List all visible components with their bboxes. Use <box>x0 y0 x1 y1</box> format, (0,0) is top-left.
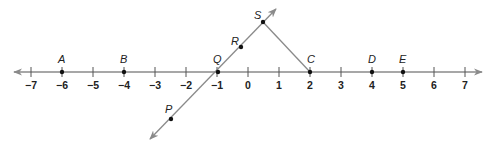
point-b: B <box>120 53 127 74</box>
point-c: C <box>307 53 315 74</box>
point-a: A <box>57 53 65 74</box>
tick-label: −7 <box>25 79 37 91</box>
tick-label: −1 <box>211 79 223 91</box>
tick-label: 3 <box>338 79 344 91</box>
diagram-canvas: −7−6−5−4−3−2−101234567 A B Q C D E P R S <box>0 0 493 151</box>
point-d: D <box>368 53 376 74</box>
geometry-diagram: −7−6−5−4−3−2−101234567 A B Q C D E P R S <box>0 0 493 151</box>
tick-label: −6 <box>56 79 68 91</box>
tick-label: 1 <box>276 79 282 91</box>
tick-label: 6 <box>431 79 437 91</box>
svg-text:B: B <box>120 53 127 65</box>
point-p: P <box>165 103 173 121</box>
segment-sc <box>263 22 310 72</box>
point-r: R <box>231 35 243 49</box>
svg-text:Q: Q <box>213 53 222 65</box>
svg-text:R: R <box>231 35 239 47</box>
tick-label: −4 <box>118 79 130 91</box>
point-s: S <box>254 9 265 24</box>
tick-label: 2 <box>307 79 313 91</box>
svg-text:S: S <box>254 9 262 21</box>
svg-text:D: D <box>368 53 376 65</box>
svg-text:C: C <box>307 53 315 65</box>
point-q: Q <box>213 53 222 74</box>
tick-label: −3 <box>149 79 161 91</box>
point-e: E <box>399 53 407 74</box>
tick-label: 0 <box>245 79 251 91</box>
tick-label: 4 <box>369 79 375 91</box>
svg-text:E: E <box>399 53 407 65</box>
svg-text:A: A <box>57 53 65 65</box>
tick-label: 7 <box>462 79 468 91</box>
tick-label: −5 <box>87 79 99 91</box>
svg-text:P: P <box>165 103 173 115</box>
tick-label: 5 <box>400 79 406 91</box>
tick-label: −2 <box>180 79 192 91</box>
